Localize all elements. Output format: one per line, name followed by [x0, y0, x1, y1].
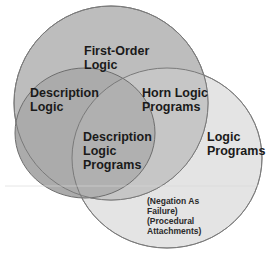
logic-programs-notes: (Negation As Failure) (Procedural Attach… [147, 196, 201, 236]
dlp-line-1: Description [83, 130, 152, 144]
dlp-line-2: Logic [83, 144, 152, 158]
description-logic-programs-label: Description Logic Programs [83, 130, 152, 172]
lp-line-1: Logic [207, 130, 265, 144]
note-line-1: (Negation As [147, 196, 201, 206]
horn-line-1: Horn Logic [142, 86, 208, 100]
fol-line-1: First-Order [84, 44, 149, 58]
horn-line-2: Programs [142, 100, 208, 114]
horn-logic-programs-label: Horn Logic Programs [142, 86, 208, 114]
note-line-3: (Procedural [147, 216, 201, 226]
logic-programs-label: Logic Programs [207, 130, 265, 158]
description-logic-label: Description Logic [30, 86, 99, 114]
lp-line-2: Programs [207, 144, 265, 158]
dl-line-1: Description [30, 86, 99, 100]
first-order-logic-label: First-Order Logic [84, 44, 149, 72]
fol-line-2: Logic [84, 58, 149, 72]
venn-diagram [0, 0, 274, 254]
note-line-2: Failure) [147, 206, 201, 216]
dl-line-2: Logic [30, 100, 99, 114]
note-line-4: Attachments) [147, 226, 201, 236]
dlp-line-3: Programs [83, 158, 152, 172]
